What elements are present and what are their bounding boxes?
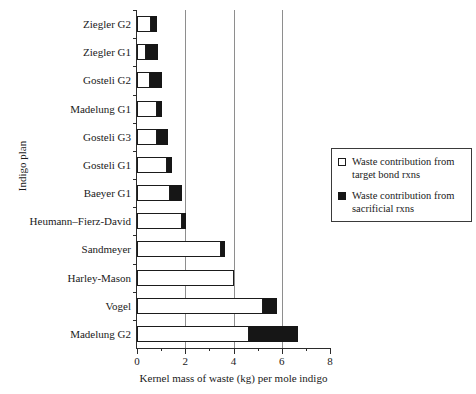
legend-label-target-bond: Waste contribution from target bond rxns: [352, 155, 454, 181]
x-axis-minor-tick-3: [209, 348, 210, 351]
legend-label-sacrificial: Waste contribution from sacrificial rxns: [352, 189, 454, 215]
category-label: Sandmeyer: [82, 243, 131, 255]
bar-segment-sacrificial: [263, 298, 277, 314]
x-axis-minor-tick-1: [161, 348, 162, 351]
x-axis-tick-label: 2: [170, 355, 200, 367]
bar-segment-target-bond: [137, 72, 150, 88]
bar-segment-sacrificial: [151, 16, 157, 32]
legend-swatch-white-icon: [338, 158, 346, 166]
category-label: Madelung G1: [70, 103, 131, 115]
y-axis-tick: [133, 10, 137, 11]
category-label: Gosteli G3: [83, 131, 131, 143]
bar-segment-target-bond: [137, 326, 249, 342]
x-axis-minor-tick-7: [306, 348, 307, 351]
bar-segment-target-bond: [137, 129, 157, 145]
category-label: Gosteli G2: [83, 74, 131, 86]
category-label: Gosteli G1: [83, 159, 131, 171]
category-label: Madelung G2: [70, 328, 131, 340]
legend-item-target-bond: Waste contribution from target bond rxns: [338, 155, 466, 181]
x-axis-label: Kernel mass of waste (kg) per mole indig…: [137, 372, 330, 384]
bar-segment-target-bond: [137, 185, 170, 201]
category-label: Harley-Mason: [67, 272, 131, 284]
legend-swatch-black-icon: [338, 192, 346, 200]
x-axis-tick-8: [330, 348, 331, 354]
legend-label-line1: Waste contribution from: [352, 190, 454, 201]
bar-segment-target-bond: [137, 213, 182, 229]
bar-segment-sacrificial: [150, 72, 162, 88]
x-axis-tick-2: [185, 348, 186, 354]
x-axis-tick-label: 4: [219, 355, 249, 367]
bar-segment-sacrificial: [167, 157, 172, 173]
legend-label-line2: sacrificial rxns: [352, 203, 414, 214]
bar-segment-sacrificial: [157, 101, 162, 117]
x-axis-tick-4: [234, 348, 235, 354]
x-axis-tick-label: 6: [267, 355, 297, 367]
x-axis-tick-label: 0: [122, 355, 152, 367]
x-axis-tick-0: [137, 348, 138, 354]
bar-segment-target-bond: [137, 16, 151, 32]
category-label: Heumann–Fierz-David: [30, 215, 131, 227]
category-label: Ziegler G2: [83, 18, 131, 30]
y-axis-tick: [133, 95, 137, 96]
category-label: Ziegler G1: [83, 46, 131, 58]
y-axis-tick: [133, 320, 137, 321]
bar-chart-figure: Indigo plan Ziegler G2Ziegler G1Gosteli …: [0, 0, 476, 394]
y-axis-tick: [133, 235, 137, 236]
bar-segment-sacrificial: [182, 213, 186, 229]
x-axis-tick-label: 8: [315, 355, 345, 367]
x-axis-minor-tick-5: [258, 348, 259, 351]
gridline-6: [282, 10, 283, 348]
y-axis-tick: [133, 207, 137, 208]
bar-segment-sacrificial: [170, 185, 182, 201]
bar-segment-sacrificial: [146, 44, 158, 60]
bar-segment-target-bond: [137, 101, 157, 117]
category-axis-labels: Ziegler G2Ziegler G1Gosteli G2Madelung G…: [0, 10, 131, 348]
bar-segment-target-bond: [137, 298, 263, 314]
y-axis-tick: [133, 151, 137, 152]
bar-segment-target-bond: [137, 270, 234, 286]
x-axis-tick-6: [282, 348, 283, 354]
bar-segment-sacrificial: [249, 326, 298, 342]
category-label: Baeyer G1: [84, 187, 131, 199]
bar-segment-target-bond: [137, 44, 146, 60]
legend-label-line2: target bond rxns: [352, 169, 420, 180]
y-axis-tick: [133, 38, 137, 39]
y-axis-tick: [133, 264, 137, 265]
bar-segment-sacrificial: [221, 241, 225, 257]
chart-legend: Waste contribution from target bond rxns…: [331, 148, 472, 222]
y-axis-tick: [133, 123, 137, 124]
plot-area: [137, 10, 330, 348]
y-axis-tick: [133, 66, 137, 67]
bar-segment-target-bond: [137, 241, 221, 257]
y-axis-tick: [133, 179, 137, 180]
bar-segment-target-bond: [137, 157, 167, 173]
legend-item-sacrificial: Waste contribution from sacrificial rxns: [338, 189, 466, 215]
y-axis-tick: [133, 292, 137, 293]
legend-label-line1: Waste contribution from: [352, 156, 454, 167]
category-label: Vogel: [106, 300, 131, 312]
bar-segment-sacrificial: [157, 129, 168, 145]
